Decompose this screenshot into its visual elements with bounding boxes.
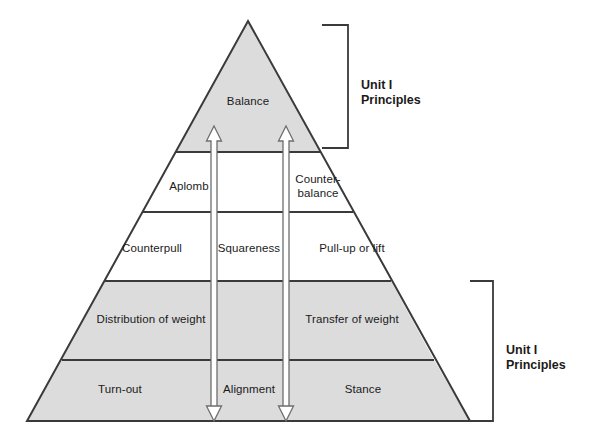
cell-pullup-or-lift-label: Pull-up or lift <box>319 241 384 255</box>
bracket-bottom-label-line1: Unit I <box>506 343 566 358</box>
cell-counterpull-label: Counterpull <box>122 241 182 255</box>
bracket-top-shape <box>322 25 348 148</box>
cell-alignment-label: Alignment <box>223 382 275 396</box>
pyramid-diagram: Balance Aplomb Counter- balance Counterp… <box>0 0 597 445</box>
cell-distribution-of-weight-label: Distribution of weight <box>97 312 206 326</box>
tier-apex-shape <box>176 21 320 152</box>
diagram-canvas <box>0 0 597 445</box>
cell-aplomb-label: Aplomb <box>169 179 209 193</box>
cell-transfer-of-weight-label: Transfer of weight <box>305 312 398 326</box>
bracket-top-label: Unit I Principles <box>361 78 421 108</box>
bracket-bottom-label: Unit I Principles <box>506 343 566 373</box>
cell-counterbalance-label: Counter- balance <box>295 172 341 200</box>
cell-squareness-label: Squareness <box>218 241 280 255</box>
cell-turn-out-label: Turn-out <box>98 382 142 396</box>
cell-balance-label: Balance <box>227 94 269 108</box>
cell-stance-label: Stance <box>345 382 381 396</box>
bracket-top-label-line2: Principles <box>361 93 421 108</box>
bracket-top-label-line1: Unit I <box>361 78 421 93</box>
bracket-bottom-label-line2: Principles <box>506 358 566 373</box>
bracket-bottom-shape <box>470 281 493 421</box>
